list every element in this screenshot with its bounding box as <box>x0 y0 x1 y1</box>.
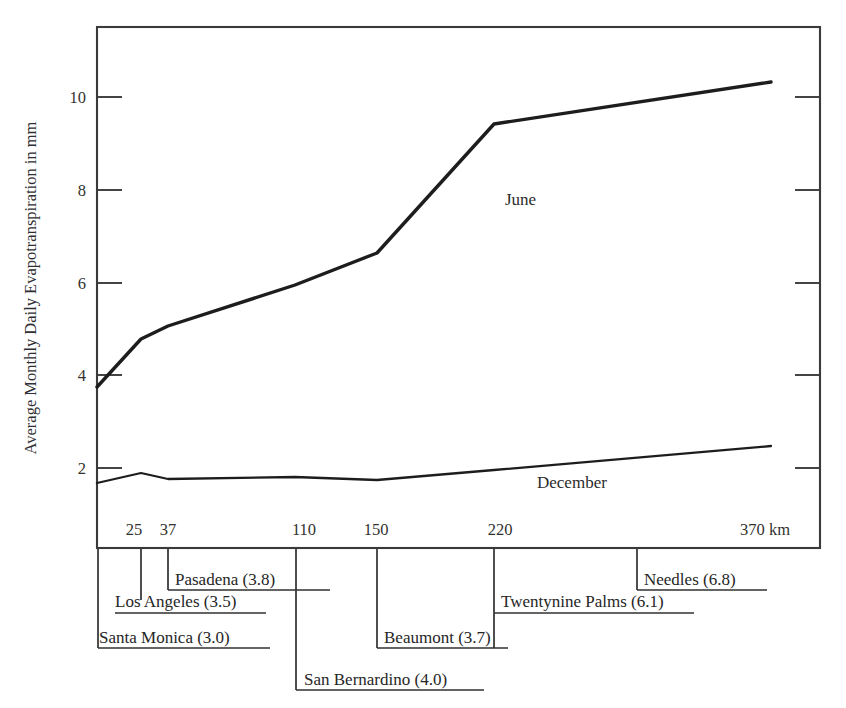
series-line-december <box>97 446 771 483</box>
station-label-twentynine-palms: Twentynine Palms (6.1) <box>501 592 664 611</box>
x-tick-label-110: 110 <box>292 520 316 539</box>
series-label-june: June <box>505 190 536 209</box>
y-tick-label-8: 8 <box>78 181 86 200</box>
plot-frame <box>97 27 820 548</box>
x-tick-label-370: 370 km <box>740 520 790 539</box>
station-label-needles: Needles (6.8) <box>644 570 736 589</box>
x-tick-label-220: 220 <box>488 520 513 539</box>
x-tick-label-25: 25 <box>126 520 143 539</box>
y-tick-label-4: 4 <box>78 366 86 385</box>
station-label-los-angeles: Los Angeles (3.5) <box>115 592 236 611</box>
y-tick-label-2: 2 <box>78 459 86 478</box>
evapotranspiration-chart-figure: 10 8 6 4 2 Average Monthly Daily Evapotr… <box>0 0 846 708</box>
y-axis-ticks <box>97 97 820 468</box>
series-line-june <box>97 82 771 387</box>
station-label-beaumont: Beaumont (3.7) <box>384 628 491 647</box>
station-label-pasadena: Pasadena (3.8) <box>175 570 275 589</box>
chart-svg: 10 8 6 4 2 Average Monthly Daily Evapotr… <box>0 0 846 708</box>
y-tick-label-10: 10 <box>70 88 87 107</box>
station-label-san-bernardino: San Bernardino (4.0) <box>304 670 447 689</box>
y-axis-title: Average Monthly Daily Evapotranspiration… <box>21 121 40 454</box>
station-label-santa-monica: Santa Monica (3.0) <box>99 628 230 647</box>
x-tick-label-37: 37 <box>160 520 177 539</box>
x-tick-label-150: 150 <box>364 520 389 539</box>
series-label-december: December <box>537 473 607 492</box>
y-tick-label-6: 6 <box>78 274 86 293</box>
